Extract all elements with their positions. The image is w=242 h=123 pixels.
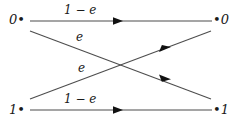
binary-symmetric-channel-diagram: 0• 1• •0 •1 1 − e 1 − e e e: [0, 0, 242, 123]
edge-label-cross-upper: e: [76, 31, 83, 43]
edge-label-bottom-transition: 1 − e: [64, 93, 96, 105]
node-output-1: •1: [213, 103, 229, 116]
node-input-0: 0•: [9, 13, 25, 26]
channel-edges-svg: [0, 0, 242, 123]
arrowhead-top-horizontal: [113, 17, 123, 25]
arrowhead-bottom-horizontal: [113, 106, 123, 114]
node-output-0: •0: [213, 13, 229, 26]
arrowhead-upward-diagonal: [159, 45, 171, 52]
edge-label-top-transition: 1 − e: [64, 4, 96, 16]
node-input-1: 1•: [9, 103, 25, 116]
edge-label-cross-lower: e: [78, 62, 85, 74]
